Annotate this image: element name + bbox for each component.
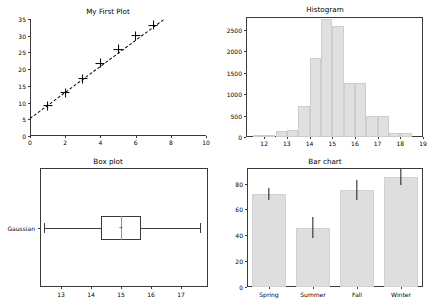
y-tickmark	[244, 116, 246, 117]
y-tickmark	[28, 69, 30, 70]
x-tickmark	[401, 287, 402, 289]
box-plot-category-label: Gaussian	[0, 224, 35, 231]
y-tick-label: 0	[222, 134, 242, 141]
box-plot-title: Box plot	[0, 157, 216, 166]
x-tick-label: 6	[134, 139, 138, 146]
x-tick-label: 12	[260, 140, 268, 147]
histogram-panel: Histogram 121314151617181905001000150020…	[217, 0, 433, 154]
histogram-bar	[276, 131, 287, 137]
y-tick-label: 500	[222, 112, 242, 119]
box-plot-mean-marker	[119, 226, 122, 229]
x-tick-label: 18	[396, 140, 404, 147]
data-point-marker	[114, 45, 123, 54]
y-tick-label: 2000	[222, 48, 242, 55]
bar-chart-bar	[340, 190, 374, 287]
y-tickmark	[28, 103, 30, 104]
y-tickmark	[244, 30, 246, 31]
x-tick-label: 15	[328, 140, 336, 147]
scatter-plot-panel: My First Plot 024681005101520253035	[0, 0, 216, 154]
bar-chart-bar	[252, 194, 286, 287]
y-tickmark	[28, 86, 30, 87]
y-tick-label: 1000	[222, 91, 242, 98]
x-tick-label: 4	[98, 139, 102, 146]
y-tick-label: 35	[8, 16, 26, 23]
x-tick-label: 17	[177, 291, 185, 298]
bar-chart-bar	[384, 177, 418, 287]
y-tickmark	[245, 261, 247, 262]
histogram-bar	[253, 135, 264, 137]
x-tick-label: 14	[87, 291, 95, 298]
y-tickmark	[244, 137, 246, 138]
x-tick-label: 15	[117, 291, 125, 298]
x-tick-label: 16	[147, 291, 155, 298]
histogram-bar	[355, 83, 366, 137]
box-plot-cap-low	[44, 223, 45, 233]
x-tickmark	[121, 287, 122, 289]
x-tick-label: 8	[169, 139, 173, 146]
y-tickmark	[244, 73, 246, 74]
y-tick-label: 2500	[222, 26, 242, 33]
x-tick-label: Winter	[391, 291, 411, 298]
x-tickmark	[61, 287, 62, 289]
x-tick-label: 17	[374, 140, 382, 147]
y-tick-label: 20	[8, 66, 26, 73]
y-tickmark	[244, 94, 246, 95]
x-tickmark	[269, 287, 270, 289]
x-tickmark	[151, 287, 152, 289]
scatter-plot-axes	[30, 19, 206, 136]
data-point-marker	[78, 74, 87, 83]
histogram-bar	[344, 83, 355, 137]
y-tick-label: 5	[8, 116, 26, 123]
data-point-marker	[43, 101, 52, 110]
x-tick-label: Summer	[300, 291, 325, 298]
bar-chart-error-bar	[356, 180, 357, 199]
histogram-bar	[332, 26, 343, 137]
y-tickmark	[28, 19, 30, 20]
histogram-bar	[310, 58, 321, 137]
x-tickmark	[357, 287, 358, 289]
x-tick-label: 0	[28, 139, 32, 146]
y-tickmark	[38, 228, 40, 229]
box-plot-cap-high	[200, 223, 201, 233]
y-tickmark	[28, 36, 30, 37]
data-point-marker	[149, 21, 158, 30]
y-tick-label: 1500	[222, 69, 242, 76]
histogram-bar	[287, 130, 298, 137]
bar-chart-error-bar	[312, 217, 313, 239]
histogram-bar	[389, 133, 400, 137]
y-tickmark	[245, 209, 247, 210]
box-plot-panel: Box plot 1314151617Gaussian	[0, 154, 216, 308]
y-tickmark	[28, 119, 30, 120]
y-tick-label: 30	[8, 32, 26, 39]
x-tick-label: 2	[63, 139, 67, 146]
y-tickmark	[245, 184, 247, 185]
histogram-bar	[400, 133, 411, 137]
x-tick-label: 16	[351, 140, 359, 147]
histogram-bar	[378, 116, 389, 137]
y-tick-label: 80	[227, 180, 243, 187]
y-tick-label: 15	[8, 82, 26, 89]
x-tick-label: Fall	[352, 291, 362, 298]
x-tickmark	[181, 287, 182, 289]
x-tick-label: 13	[57, 291, 65, 298]
y-tick-label: 60	[227, 206, 243, 213]
y-tick-label: 40	[227, 232, 243, 239]
data-point-marker	[61, 88, 70, 97]
x-tick-label: 14	[306, 140, 314, 147]
y-tickmark	[245, 287, 247, 288]
y-tick-label: 10	[8, 99, 26, 106]
y-tick-label: 25	[8, 49, 26, 56]
bar-chart-error-bar	[268, 188, 269, 200]
bar-chart-title: Bar chart	[217, 157, 433, 166]
y-tickmark	[28, 136, 30, 137]
x-tick-label: Spring	[259, 291, 278, 298]
x-tick-label: 13	[283, 140, 291, 147]
histogram-bar	[264, 135, 275, 137]
y-tickmark	[245, 235, 247, 236]
bar-chart-panel: Bar chart 020406080SpringSummerFallWinte…	[217, 154, 433, 308]
y-tickmark	[28, 52, 30, 53]
y-tick-label: 0	[227, 284, 243, 291]
y-tickmark	[244, 51, 246, 52]
x-tickmark	[313, 287, 314, 289]
histogram-title: Histogram	[217, 5, 433, 14]
